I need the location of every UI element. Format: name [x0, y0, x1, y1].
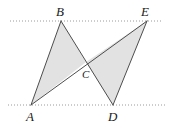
geometry-figure: A B C D E [0, 0, 170, 127]
vertex-label-a: A [25, 109, 34, 124]
triangle-cde [86, 21, 147, 105]
vertex-label-b: B [56, 4, 64, 19]
vertex-label-c: C [82, 68, 90, 80]
geometry-diagram: A B C D E [0, 0, 170, 127]
vertex-label-d: D [107, 109, 118, 124]
vertex-label-e: E [140, 4, 149, 19]
triangle-abc [31, 21, 86, 105]
